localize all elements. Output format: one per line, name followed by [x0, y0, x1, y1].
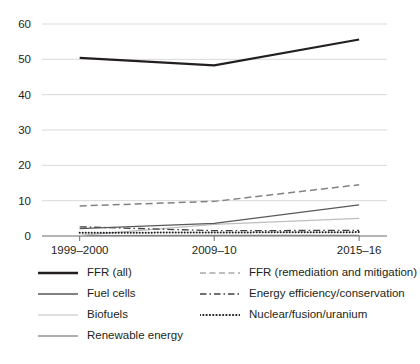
x-axis-tick-label: 2009–10 [192, 244, 237, 256]
legend-item-label: Fuel cells [87, 287, 136, 300]
y-axis-tick-label: 50 [18, 53, 31, 65]
legend-swatch [38, 330, 78, 342]
series-line [80, 232, 359, 233]
legend-item-label: Energy efficiency/conservation [249, 287, 405, 300]
legend-column-right: FFR (remediation and mitigation)Energy e… [200, 262, 420, 325]
y-axis-tick-label: 40 [18, 89, 31, 101]
chart-legend: FFR (all)Fuel cellsBiofuelsRenewable ene… [0, 262, 420, 364]
legend-item[interactable]: Renewable energy [38, 325, 208, 346]
x-axis-tick-label: 1999–2000 [51, 244, 109, 256]
y-axis-tick-label: 10 [18, 195, 31, 207]
legend-item-label: Nuclear/fusion/uranium [249, 308, 367, 321]
legend-swatch [38, 267, 78, 279]
legend-column-left: FFR (all)Fuel cellsBiofuelsRenewable ene… [38, 262, 208, 346]
legend-item[interactable]: Biofuels [38, 304, 208, 325]
legend-item[interactable]: Nuclear/fusion/uranium [200, 304, 420, 325]
legend-swatch [38, 288, 78, 300]
series-line [80, 185, 359, 206]
chart-figure: 01020304050601999–20002009–102015–16 FFR… [0, 0, 420, 364]
legend-item[interactable]: Energy efficiency/conservation [200, 283, 420, 304]
legend-swatch [200, 267, 240, 279]
y-axis-tick-label: 60 [18, 18, 31, 30]
legend-item-label: FFR (all) [87, 266, 132, 279]
y-axis-tick-label: 20 [18, 159, 31, 171]
legend-item-label: Biofuels [87, 308, 128, 321]
series-line [80, 40, 359, 66]
legend-item[interactable]: FFR (all) [38, 262, 208, 283]
legend-item-label: FFR (remediation and mitigation) [249, 266, 417, 279]
x-axis-tick-label: 2015–16 [337, 244, 382, 256]
legend-swatch [200, 309, 240, 321]
legend-item[interactable]: Fuel cells [38, 283, 208, 304]
legend-swatch [200, 288, 240, 300]
y-axis-tick-label: 30 [18, 124, 31, 136]
series-line [80, 205, 359, 229]
y-axis-tick-label: 0 [25, 230, 31, 242]
line-chart-plot: 01020304050601999–20002009–102015–16 [0, 0, 420, 262]
legend-swatch [38, 309, 78, 321]
legend-item-label: Renewable energy [87, 329, 183, 342]
legend-item[interactable]: FFR (remediation and mitigation) [200, 262, 420, 283]
